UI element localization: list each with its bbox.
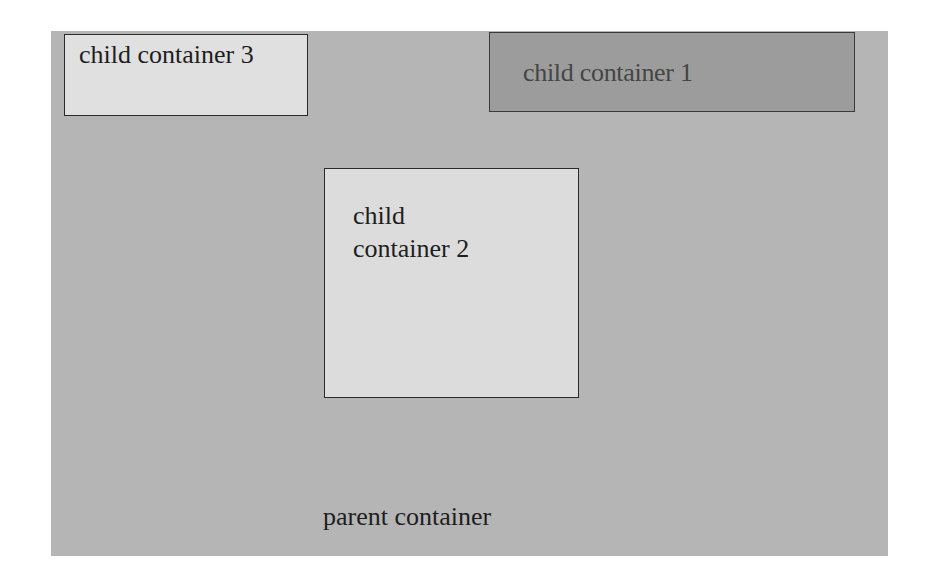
parent-container-label: parent container <box>323 501 491 533</box>
parent-container: child container 3 child container 1 chil… <box>51 31 888 556</box>
child-container-2-label: child container 2 <box>353 199 533 265</box>
child-container-1-label: child container 1 <box>523 57 693 89</box>
child-container-2: child container 2 <box>324 168 579 398</box>
child-container-3-label: child container 3 <box>79 39 254 71</box>
child-container-2-label-line1: child <box>353 199 533 232</box>
child-container-3: child container 3 <box>64 34 308 116</box>
child-container-1: child container 1 <box>489 32 855 112</box>
child-container-2-label-line2: container 2 <box>353 232 533 265</box>
